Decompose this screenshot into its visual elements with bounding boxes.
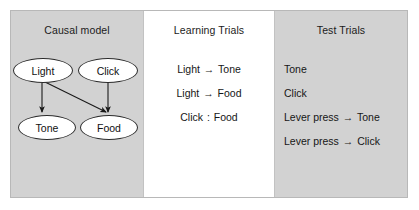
trial-right: Tone — [218, 63, 241, 75]
causal-graph-edges — [11, 11, 143, 199]
trial-right: Food — [214, 111, 238, 123]
panel-learning-trials-title: Learning Trials — [144, 24, 274, 36]
trial-right: Tone — [357, 111, 380, 123]
causal-graph: Light Click Tone Food — [11, 11, 143, 199]
list-item: Tone — [284, 57, 407, 81]
node-tone-label: Tone — [36, 122, 59, 134]
trial-left: Tone — [284, 63, 307, 75]
list-item: Light → Tone — [150, 57, 268, 81]
trial-right: Food — [218, 87, 242, 99]
learning-trials-list: Light → Tone Light → Food Click : Food — [144, 57, 274, 129]
arrow-icon: → — [203, 63, 216, 75]
trial-left: Lever press — [284, 111, 339, 123]
arrow-icon: → — [342, 135, 355, 147]
node-food: Food — [80, 115, 138, 140]
test-trials-list: Tone Click Lever press → Tone Lever pres… — [275, 57, 407, 153]
list-item: Lever press → Tone — [284, 105, 407, 129]
node-click: Click — [78, 58, 138, 83]
list-item: Click — [284, 81, 407, 105]
figure-frame: Causal model Light Click — [10, 10, 408, 198]
panel-learning-trials: Learning Trials Light → Tone Light → Foo… — [143, 11, 275, 197]
arrow-icon — [307, 63, 309, 75]
node-food-label: Food — [97, 122, 121, 134]
list-item: Click : Food — [150, 105, 268, 129]
trial-left: Click — [284, 87, 307, 99]
trial-left: Click — [180, 111, 203, 123]
node-tone: Tone — [18, 115, 76, 140]
trial-right: Click — [357, 135, 380, 147]
list-item: Light → Food — [150, 81, 268, 105]
trial-left: Lever press — [284, 135, 339, 147]
arrow-icon: → — [342, 111, 355, 123]
panel-test-trials-title: Test Trials — [275, 24, 407, 36]
colon-separator: : — [206, 111, 211, 123]
trial-left: Light — [177, 63, 200, 75]
node-light: Light — [13, 58, 73, 83]
arrow-icon — [307, 87, 309, 99]
node-light-label: Light — [32, 65, 55, 77]
trial-left: Light — [176, 87, 199, 99]
arrow-icon: → — [202, 87, 215, 99]
list-item: Lever press → Click — [284, 129, 407, 153]
node-click-label: Click — [97, 65, 120, 77]
panel-causal-model: Causal model Light Click — [11, 11, 143, 197]
panel-test-trials: Test Trials Tone Click Lever press → Ton… — [275, 11, 407, 197]
edge-light-food — [43, 81, 106, 112]
